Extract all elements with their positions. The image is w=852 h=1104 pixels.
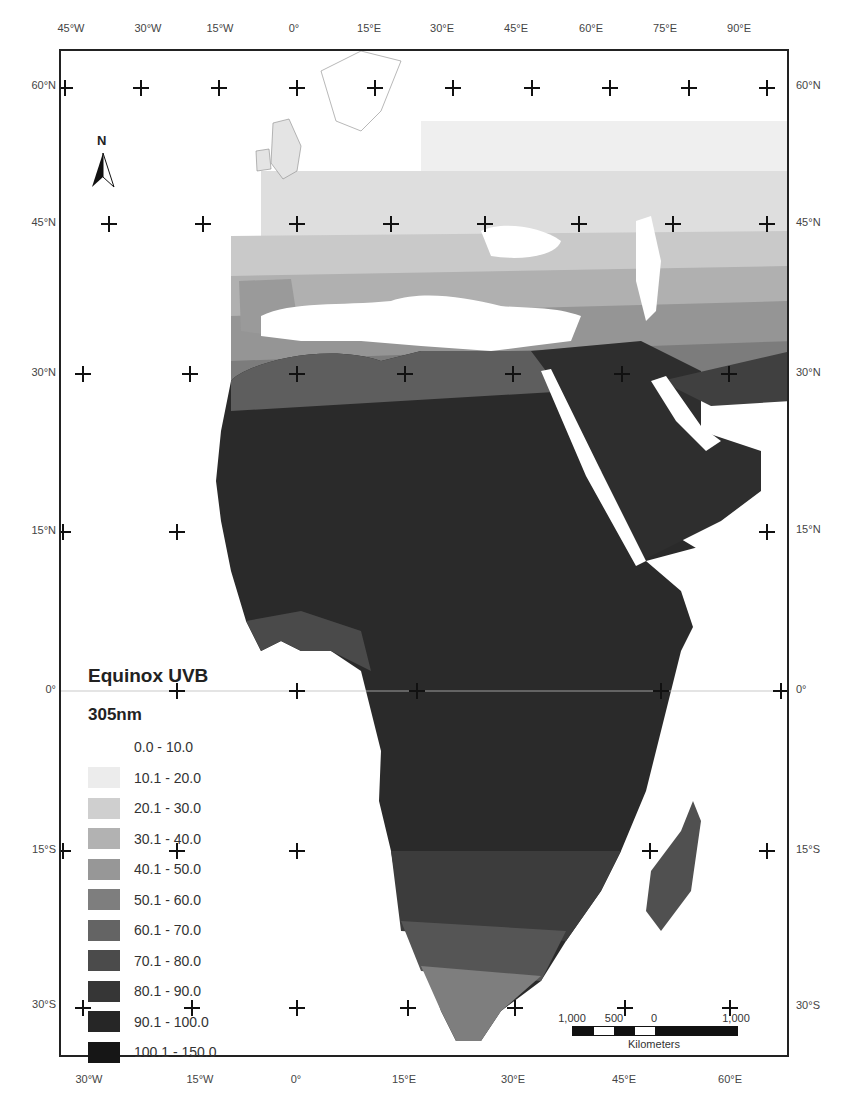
top-axis-label: 45°W (57, 22, 84, 34)
legend-label: 80.1 - 90.0 (134, 983, 201, 999)
legend-item: 30.1 - 40.0 (88, 824, 217, 855)
legend-label: 70.1 - 80.0 (134, 953, 201, 969)
top-axis-label: 15°E (357, 22, 381, 34)
legend-swatch (88, 798, 120, 819)
legend-item: 70.1 - 80.0 (88, 946, 217, 977)
bottom-axis-label: 30°E (501, 1073, 525, 1085)
legend-swatch (88, 737, 120, 758)
top-axis-label: 45°E (504, 22, 528, 34)
legend: Equinox UVB 305nm 0.0 - 10.0 10.1 - 20.0… (88, 664, 217, 1068)
legend-label: 40.1 - 50.0 (134, 861, 201, 877)
legend-item: 50.1 - 60.0 (88, 885, 217, 916)
top-axis-label: 75°E (653, 22, 677, 34)
legend-label: 10.1 - 20.0 (134, 770, 201, 786)
scale-unit: Kilometers (572, 1038, 736, 1050)
left-axis-label: 30°S (32, 998, 58, 1010)
bottom-axis-label: 0° (291, 1073, 302, 1085)
top-axis-label: 15°W (206, 22, 233, 34)
bottom-axis-label: 45°E (612, 1073, 636, 1085)
bottom-axis-label: 15°E (392, 1073, 416, 1085)
scale-bar: 1,000 500 0 1,000 Kilometers (556, 1012, 756, 1050)
scale-label: 0 (651, 1012, 657, 1024)
north-arrow-icon (90, 151, 120, 191)
top-axis-label: 0° (289, 22, 300, 34)
north-label: N (97, 133, 106, 148)
right-axis-label: 30°S (794, 999, 820, 1011)
legend-item: 0.0 - 10.0 (88, 732, 217, 763)
legend-items: 0.0 - 10.0 10.1 - 20.0 20.1 - 30.0 30.1 … (88, 732, 217, 1068)
bottom-axis-label: 60°E (718, 1073, 742, 1085)
legend-title: Equinox UVB (88, 664, 217, 688)
legend-swatch (88, 1011, 120, 1032)
legend-swatch (88, 767, 120, 788)
left-axis-label: 30°N (31, 366, 58, 378)
legend-item: 10.1 - 20.0 (88, 763, 217, 794)
legend-item: 100.1 - 150.0 (88, 1037, 217, 1068)
scale-label: 1,000 (722, 1012, 750, 1024)
legend-swatch (88, 1042, 120, 1063)
left-axis-label: 15°N (31, 524, 58, 536)
left-axis-label: 60°N (31, 79, 58, 91)
left-axis-label: 45°N (31, 216, 58, 228)
scale-label: 500 (605, 1012, 623, 1024)
left-axis-label: 15°S (32, 843, 58, 855)
top-axis-label: 30°E (430, 22, 454, 34)
scale-labels: 1,000 500 0 1,000 (556, 1012, 756, 1026)
scale-bar-graphic (572, 1026, 738, 1036)
legend-label: 20.1 - 30.0 (134, 800, 201, 816)
legend-swatch (88, 859, 120, 880)
right-axis-label: 60°N (794, 79, 821, 91)
legend-swatch (88, 950, 120, 971)
legend-label: 50.1 - 60.0 (134, 892, 201, 908)
right-axis-label: 45°N (794, 216, 821, 228)
legend-item: 40.1 - 50.0 (88, 854, 217, 885)
legend-label: 90.1 - 100.0 (134, 1014, 209, 1030)
scale-label: 1,000 (558, 1012, 586, 1024)
right-axis-label: 15°N (794, 523, 821, 535)
legend-item: 80.1 - 90.0 (88, 976, 217, 1007)
legend-subtitle: 305nm (88, 704, 217, 726)
right-axis-label: 0° (794, 683, 807, 695)
legend-item: 60.1 - 70.0 (88, 915, 217, 946)
legend-swatch (88, 981, 120, 1002)
legend-swatch (88, 920, 120, 941)
legend-item: 90.1 - 100.0 (88, 1007, 217, 1038)
north-arrow: N (90, 133, 120, 193)
bottom-axis-label: 30°W (75, 1073, 102, 1085)
top-axis-label: 90°E (727, 22, 751, 34)
legend-label: 30.1 - 40.0 (134, 831, 201, 847)
legend-label: 100.1 - 150.0 (134, 1044, 217, 1060)
left-axis-label: 0° (45, 683, 58, 695)
legend-item: 20.1 - 30.0 (88, 793, 217, 824)
top-axis-label: 60°E (579, 22, 603, 34)
legend-swatch (88, 828, 120, 849)
top-axis-label: 30°W (134, 22, 161, 34)
legend-swatch (88, 889, 120, 910)
legend-label: 60.1 - 70.0 (134, 922, 201, 938)
right-axis-label: 30°N (794, 366, 821, 378)
right-axis-label: 15°S (794, 843, 820, 855)
legend-label: 0.0 - 10.0 (134, 739, 193, 755)
bottom-axis-label: 15°W (186, 1073, 213, 1085)
